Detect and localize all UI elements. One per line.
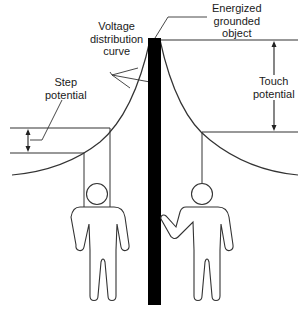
label-step-potential: Step potential [45,76,87,101]
label-voltage-curve: Voltage distribution curve [90,20,143,58]
label-line: curve [90,45,143,58]
right-person [161,184,233,301]
voltage-curve-right [160,40,298,175]
label-line: potential [45,89,87,102]
label-line: Step [45,76,87,89]
label-line: distribution [90,33,143,46]
step-touch-potential-diagram: Voltage distribution curve Energized gro… [0,0,306,312]
label-line: Energized [212,2,262,15]
label-line: grounded [212,15,262,28]
leader-voltage-curve [110,68,150,82]
diagram-graphics [0,0,306,312]
label-touch-potential: Touch potential [253,75,295,100]
left-person [71,184,129,301]
voltage-curve-left [12,40,150,175]
leader-step-potential [30,100,62,140]
leader-energized-object [155,17,207,38]
label-line: Voltage [90,20,143,33]
step-arrow [26,129,31,152]
energized-pole [148,38,161,305]
label-line: potential [253,88,295,101]
label-line: Touch [253,75,295,88]
label-line: object [212,27,262,40]
label-energized-object: Energized grounded object [212,2,262,40]
